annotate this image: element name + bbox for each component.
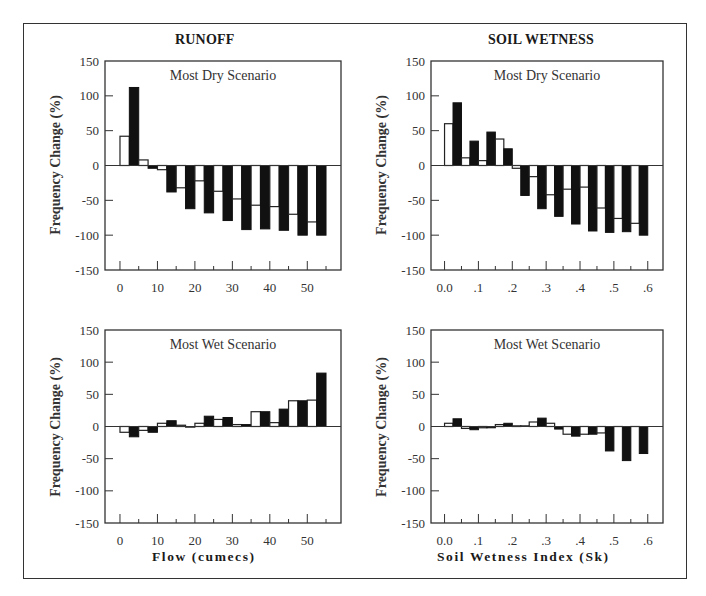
bar-filled xyxy=(639,427,647,454)
bar-filled xyxy=(317,373,326,426)
bar-filled xyxy=(588,166,596,231)
bar-hollow xyxy=(251,412,260,427)
bar-filled xyxy=(605,166,613,233)
bar-filled xyxy=(605,427,613,451)
scenario-title: Most Dry Scenario xyxy=(494,68,601,83)
bar-filled xyxy=(279,166,288,231)
bar-hollow xyxy=(289,401,298,427)
bar-filled xyxy=(298,401,307,427)
bar-hollow xyxy=(251,166,260,206)
y-tick-label: 150 xyxy=(80,54,100,69)
y-axis-label: Frequency Change (%) xyxy=(48,95,64,235)
x-axis-label-flow: Flow (cumecs) xyxy=(152,549,256,565)
x-tick-label: 0 xyxy=(117,533,124,548)
bar-hollow xyxy=(214,419,223,426)
y-tick-label: -50 xyxy=(408,193,425,208)
x-tick-label: .5 xyxy=(609,280,619,295)
bar-hollow xyxy=(580,427,588,435)
chart-canvas: 150100500-50-100-15001020304050Most Dry … xyxy=(0,0,706,596)
x-tick-label: .1 xyxy=(474,280,484,295)
x-tick-label: .2 xyxy=(507,533,517,548)
y-tick-label: -50 xyxy=(408,451,425,466)
y-tick-label: -100 xyxy=(401,483,425,498)
bar-filled xyxy=(204,416,213,426)
bar-hollow xyxy=(529,422,537,427)
x-tick-label: .1 xyxy=(474,533,484,548)
y-tick-label: -100 xyxy=(75,483,99,498)
bar-hollow xyxy=(307,400,316,426)
bar-filled xyxy=(223,166,232,221)
y-tick-label: -50 xyxy=(82,193,99,208)
y-tick-label: -150 xyxy=(401,516,425,531)
bar-filled xyxy=(279,409,288,426)
x-tick-label: .6 xyxy=(643,533,653,548)
y-tick-label: 0 xyxy=(93,158,100,173)
bar-hollow xyxy=(597,166,605,208)
y-tick-label: 0 xyxy=(419,419,426,434)
bar-filled xyxy=(167,166,176,192)
x-tick-label: .4 xyxy=(575,533,585,548)
y-tick-label: 0 xyxy=(93,419,100,434)
y-tick-label: 100 xyxy=(80,88,100,103)
x-tick-label: 50 xyxy=(301,533,314,548)
x-axis-label-soil-wetness: Soil Wetness Index (Sk) xyxy=(437,549,610,565)
bar-filled xyxy=(572,427,580,437)
bar-hollow xyxy=(195,166,204,181)
bar-hollow xyxy=(157,166,166,170)
y-tick-label: -150 xyxy=(401,263,425,278)
bar-filled xyxy=(572,166,580,225)
x-tick-label: 30 xyxy=(226,533,239,548)
y-tick-label: 150 xyxy=(80,323,100,338)
bar-filled xyxy=(555,166,563,217)
x-tick-label: .4 xyxy=(575,280,585,295)
bar-hollow xyxy=(580,166,588,188)
x-tick-label: 40 xyxy=(263,280,276,295)
bar-hollow xyxy=(445,124,453,166)
bar-filled xyxy=(538,418,546,426)
bar-hollow xyxy=(120,136,129,165)
x-tick-label: 10 xyxy=(151,280,164,295)
bar-hollow xyxy=(529,166,537,177)
bar-hollow xyxy=(563,427,571,435)
x-tick-label: 50 xyxy=(301,280,314,295)
bar-filled xyxy=(504,149,512,166)
x-tick-label: 20 xyxy=(188,280,201,295)
x-tick-label: .2 xyxy=(507,280,517,295)
bar-filled xyxy=(487,132,495,165)
y-tick-label: -150 xyxy=(75,263,99,278)
x-tick-label: .3 xyxy=(541,533,551,548)
bar-filled xyxy=(260,166,269,229)
scenario-title: Most Wet Scenario xyxy=(170,337,277,352)
bar-filled xyxy=(129,427,138,437)
y-tick-label: 50 xyxy=(86,123,99,138)
bar-hollow xyxy=(176,166,185,188)
bar-hollow xyxy=(232,166,241,199)
y-tick-label: 100 xyxy=(406,355,426,370)
bar-hollow xyxy=(631,166,639,224)
bar-filled xyxy=(242,166,251,230)
y-tick-label: 150 xyxy=(406,54,426,69)
bar-filled xyxy=(298,166,307,236)
bar-filled xyxy=(521,166,529,196)
bar-filled xyxy=(167,421,176,427)
panel-runoff-dry: 150100500-50-100-15001020304050Most Dry … xyxy=(48,54,341,296)
y-tick-label: -150 xyxy=(75,516,99,531)
bar-filled xyxy=(223,417,232,426)
bar-hollow xyxy=(139,160,148,166)
bar-filled xyxy=(622,166,630,232)
y-tick-label: -100 xyxy=(401,228,425,243)
scenario-title: Most Dry Scenario xyxy=(170,68,277,83)
y-tick-label: 50 xyxy=(86,387,99,402)
x-tick-label: .3 xyxy=(541,280,551,295)
y-axis-label: Frequency Change (%) xyxy=(48,357,64,497)
panel-soil-dry: 150100500-50-100-1500.0.1.2.3.4.5.6Most … xyxy=(374,54,663,296)
x-tick-label: .5 xyxy=(609,533,619,548)
panel-runoff-wet: 150100500-50-100-15001020304050Most Wet … xyxy=(48,323,341,549)
y-tick-label: -100 xyxy=(75,228,99,243)
bar-filled xyxy=(204,166,213,213)
bar-filled xyxy=(148,427,157,433)
bar-hollow xyxy=(563,166,571,190)
bar-hollow xyxy=(214,166,223,192)
bar-hollow xyxy=(120,427,129,433)
y-tick-label: 100 xyxy=(406,88,426,103)
